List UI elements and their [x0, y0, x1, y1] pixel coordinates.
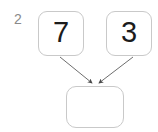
edge-left-to-sum [60, 57, 92, 83]
node-addend-right[interactable]: 3 [106, 11, 152, 56]
node-addend-left[interactable]: 7 [38, 11, 84, 56]
number-bond-diagram: 2 7 3 [0, 0, 158, 132]
edge-right-to-sum [99, 57, 133, 83]
node-addend-right-value: 3 [121, 18, 137, 49]
step-number-label: 2 [10, 10, 26, 28]
node-addend-left-value: 7 [53, 18, 69, 49]
node-sum-empty[interactable] [66, 86, 124, 128]
